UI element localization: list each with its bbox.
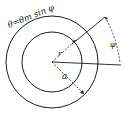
radius-a-dashed [52,62,84,94]
radius-r-label: r [58,49,63,58]
reference-axis-line [52,62,121,65]
angle-phi-label: φ [110,40,116,49]
radial-line [72,17,105,44]
polar-ring-diagram: θ=θm sin φ r a φ [0,0,124,113]
radius-a-label: a [62,71,67,81]
